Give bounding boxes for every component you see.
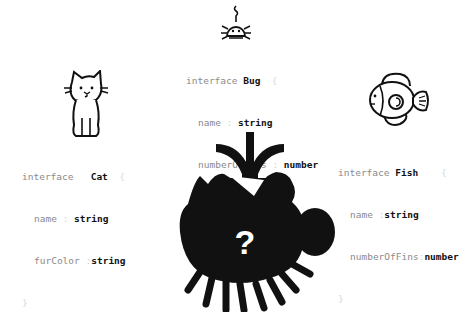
fish-icon	[366, 70, 432, 130]
interface-name: Fish	[395, 167, 418, 178]
cat-icon	[62, 70, 110, 140]
prop-name: name	[350, 209, 373, 220]
unknown-hybrid-creature-icon: ?	[160, 132, 340, 312]
bug-icon	[220, 2, 252, 46]
fish-interface-code: interface Fish { name :string numberOfFi…	[338, 138, 459, 320]
prop-type: string	[74, 213, 108, 224]
prop-type: string	[91, 255, 125, 266]
keyword: interface	[22, 171, 73, 182]
interface-name: Bug	[243, 75, 260, 86]
question-mark: ?	[235, 223, 256, 261]
cat-interface-code: interface Cat { name : string furColor :…	[22, 142, 126, 320]
prop-name: name	[34, 213, 57, 224]
prop-name: name	[198, 117, 221, 128]
interface-name: Cat	[91, 171, 108, 182]
keyword: interface	[186, 75, 237, 86]
prop-type: number	[424, 251, 458, 262]
keyword: interface	[338, 167, 389, 178]
prop-type: string	[384, 209, 418, 220]
prop-name: numberOfFins	[350, 251, 419, 262]
prop-name: furColor	[34, 255, 80, 266]
prop-type: string	[238, 117, 272, 128]
